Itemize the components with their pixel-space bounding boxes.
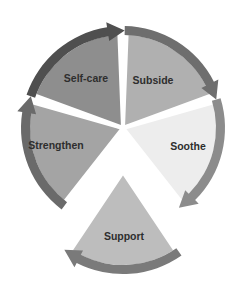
segment-wedge-support: [70, 172, 176, 267]
segment-label-support: Support: [104, 230, 145, 242]
segment-label-strengthen: Strengthen: [28, 139, 83, 151]
segment-label-self-care: Self-care: [64, 72, 109, 84]
segment-label-soothe: Soothe: [170, 140, 206, 152]
cycle-diagram: Subside Soothe Support Strengthen Self-c…: [0, 0, 242, 288]
segment-label-subside: Subside: [133, 74, 174, 86]
